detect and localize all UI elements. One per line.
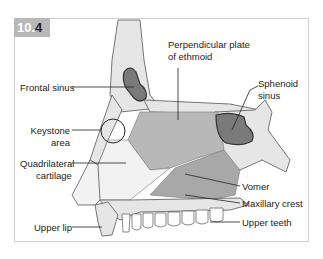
label-upper-lip: Upper lip bbox=[34, 222, 72, 233]
label-sphenoid-sinus-line1: Sphenoid bbox=[258, 78, 298, 89]
tooth bbox=[210, 208, 223, 222]
label-quadrilateral-line2: cartilage bbox=[36, 170, 72, 181]
label-maxillary-crest: Maxillary crest bbox=[242, 198, 303, 209]
label-sphenoid-sinus-line2: sinus bbox=[258, 90, 280, 101]
tooth bbox=[155, 213, 166, 227]
tooth bbox=[182, 211, 194, 225]
label-keystone-line1: Keystone bbox=[20, 125, 70, 136]
tooth bbox=[132, 214, 141, 230]
label-vomer: Vomer bbox=[242, 181, 269, 192]
label-perpendicular-plate-line2: of ethmoid bbox=[168, 51, 212, 62]
label-keystone-line2: area bbox=[20, 137, 70, 148]
tooth bbox=[168, 212, 180, 226]
tooth bbox=[122, 214, 130, 232]
label-frontal-sinus: Frontal sinus bbox=[20, 82, 74, 93]
tooth bbox=[143, 213, 153, 228]
tooth bbox=[196, 210, 208, 224]
label-perpendicular-plate-line1: Perpendicular plate bbox=[168, 39, 250, 50]
nose-profile bbox=[72, 160, 100, 205]
label-upper-teeth: Upper teeth bbox=[242, 217, 292, 228]
label-quadrilateral-line1: Quadrilateral bbox=[20, 158, 74, 169]
